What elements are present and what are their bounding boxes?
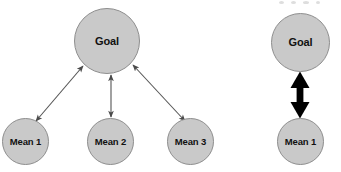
node-label: Mean 1: [285, 137, 317, 147]
edge-mean3-goal: [133, 65, 185, 121]
node-goal-right[interactable]: Goal: [271, 13, 330, 72]
node-mean-2[interactable]: Mean 2: [87, 118, 134, 165]
node-label: Mean 2: [95, 137, 127, 147]
edge-mean1-goal: [36, 66, 83, 121]
node-mean-3[interactable]: Mean 3: [167, 118, 214, 165]
node-label: Goal: [95, 36, 119, 47]
diagram-canvas: Goal Mean 1 Mean 2 Mean 3 Goal Mean 1: [0, 0, 341, 172]
node-label: Goal: [288, 37, 312, 48]
edge-mean1-goal-thick: [291, 72, 310, 119]
node-mean-1-right[interactable]: Mean 1: [277, 118, 324, 165]
node-goal-left[interactable]: Goal: [74, 8, 140, 74]
node-label: Mean 1: [10, 137, 42, 147]
node-mean-1[interactable]: Mean 1: [2, 118, 49, 165]
node-label: Mean 3: [175, 137, 207, 147]
